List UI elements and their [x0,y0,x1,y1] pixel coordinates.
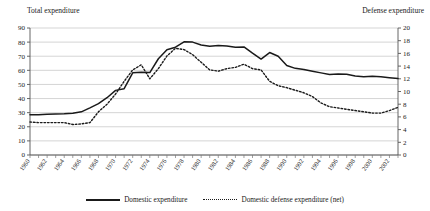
legend-swatch-dotted-line-icon [203,196,237,204]
svg-text:14: 14 [403,63,411,71]
y-axis-right [398,28,401,155]
y-axis-left [27,28,30,155]
legend-swatch-solid-line-icon [86,196,120,204]
svg-text:1970: 1970 [103,158,116,172]
svg-text:1974: 1974 [138,157,151,172]
gridlines [30,28,398,155]
svg-text:1976: 1976 [155,158,168,172]
svg-text:6: 6 [403,113,407,121]
x-tick-labels: 1960196219641966196819701972197419761978… [18,157,390,172]
svg-text:2: 2 [403,139,407,147]
svg-text:16: 16 [403,50,411,58]
svg-text:30: 30 [18,109,26,117]
series-line-2 [30,48,398,124]
y-tick-labels-right: 02468101214161820 [403,24,411,159]
svg-text:1988: 1988 [257,158,270,172]
x-axis [30,155,398,158]
svg-text:2002: 2002 [377,158,390,172]
svg-text:1980: 1980 [189,158,202,172]
svg-text:20: 20 [403,24,411,32]
line-chart-svg: 0102030405060708090 02468101214161820 19… [0,0,430,211]
chart-legend: Domestic expenditure Domestic defense ex… [0,192,430,208]
svg-text:70: 70 [18,53,26,61]
svg-text:60: 60 [18,67,26,75]
svg-text:80: 80 [18,39,26,47]
legend-item-domestic-defense-expenditure: Domestic defense expenditure (net) [203,196,343,204]
legend-label-domestic-expenditure: Domestic expenditure [124,196,187,204]
plot-area: 0102030405060708090 02468101214161820 19… [0,0,430,211]
chart-container: Total expenditure Defense expenditure 01… [0,0,430,211]
svg-text:8: 8 [403,101,407,109]
svg-text:1962: 1962 [35,158,48,172]
svg-text:1968: 1968 [86,158,99,172]
series-lines [30,42,398,125]
svg-text:1964: 1964 [52,157,65,172]
legend-label-domestic-defense-expenditure: Domestic defense expenditure (net) [241,196,343,204]
svg-text:40: 40 [18,95,26,103]
svg-text:90: 90 [18,24,26,32]
svg-text:1996: 1996 [326,158,339,172]
y-tick-labels-left: 0102030405060708090 [18,24,26,159]
svg-text:1978: 1978 [172,158,185,172]
svg-text:1966: 1966 [69,158,82,172]
svg-text:50: 50 [18,81,26,89]
svg-text:1994: 1994 [309,157,322,172]
legend-item-domestic-expenditure: Domestic expenditure [86,196,187,204]
svg-text:1986: 1986 [240,158,253,172]
svg-text:1972: 1972 [121,158,134,172]
series-line-1 [30,42,398,115]
svg-text:18: 18 [403,37,411,45]
svg-text:0: 0 [403,151,407,159]
svg-text:1982: 1982 [206,158,219,172]
svg-text:10: 10 [403,88,411,96]
svg-text:1998: 1998 [343,158,356,172]
svg-text:1992: 1992 [292,158,305,172]
svg-text:10: 10 [18,137,26,145]
svg-text:1990: 1990 [275,158,288,172]
svg-text:1960: 1960 [18,158,31,172]
svg-text:12: 12 [403,75,411,83]
svg-text:4: 4 [403,126,407,134]
svg-text:2000: 2000 [360,158,373,172]
svg-text:20: 20 [18,123,26,131]
svg-text:1984: 1984 [223,157,236,172]
